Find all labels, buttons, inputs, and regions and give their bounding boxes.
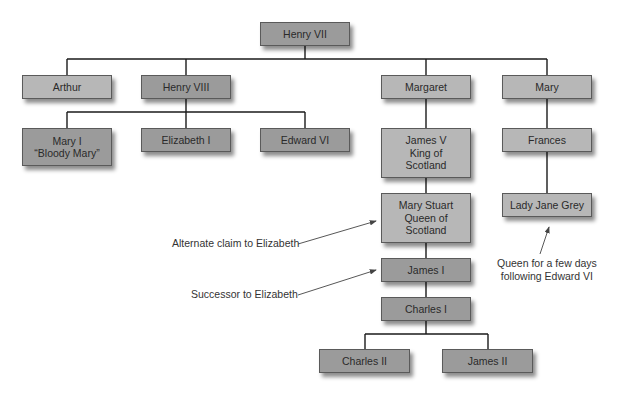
node-elizabeth1: Elizabeth I xyxy=(141,128,231,152)
node-charles2: Charles II xyxy=(319,349,410,373)
node-arthur: Arthur xyxy=(22,75,112,99)
node-mary: Mary xyxy=(502,75,592,99)
node-james1: James I xyxy=(381,258,471,282)
node-frances: Frances xyxy=(502,128,592,152)
node-james2: James II xyxy=(442,349,533,373)
node-mary1: Mary I “Bloody Mary” xyxy=(22,128,112,166)
node-margaret: Margaret xyxy=(381,75,471,99)
node-ladyjane: Lady Jane Grey xyxy=(502,193,592,217)
family-tree-diagram: Henry VIIArthurHenry VIIIMargaretMaryMar… xyxy=(0,0,618,401)
annotation-arrow-icon xyxy=(540,227,549,254)
node-henry7: Henry VII xyxy=(260,22,350,46)
annotation-queen-few-days: Queen for a few days following Edward VI xyxy=(497,257,597,283)
annotation-arrow-icon xyxy=(298,221,376,244)
node-henry8: Henry VIII xyxy=(141,75,231,99)
node-charles1: Charles I xyxy=(381,297,471,321)
node-edward6: Edward VI xyxy=(260,128,350,152)
annotation-alt-claim: Alternate claim to Elizabeth xyxy=(172,237,299,250)
node-marystuart: Mary Stuart Queen of Scotland xyxy=(381,193,471,243)
node-james5: James V King of Scotland xyxy=(381,128,471,178)
annotation-arrow-icon xyxy=(298,270,376,295)
annotation-successor: Successor to Elizabeth xyxy=(191,288,298,301)
